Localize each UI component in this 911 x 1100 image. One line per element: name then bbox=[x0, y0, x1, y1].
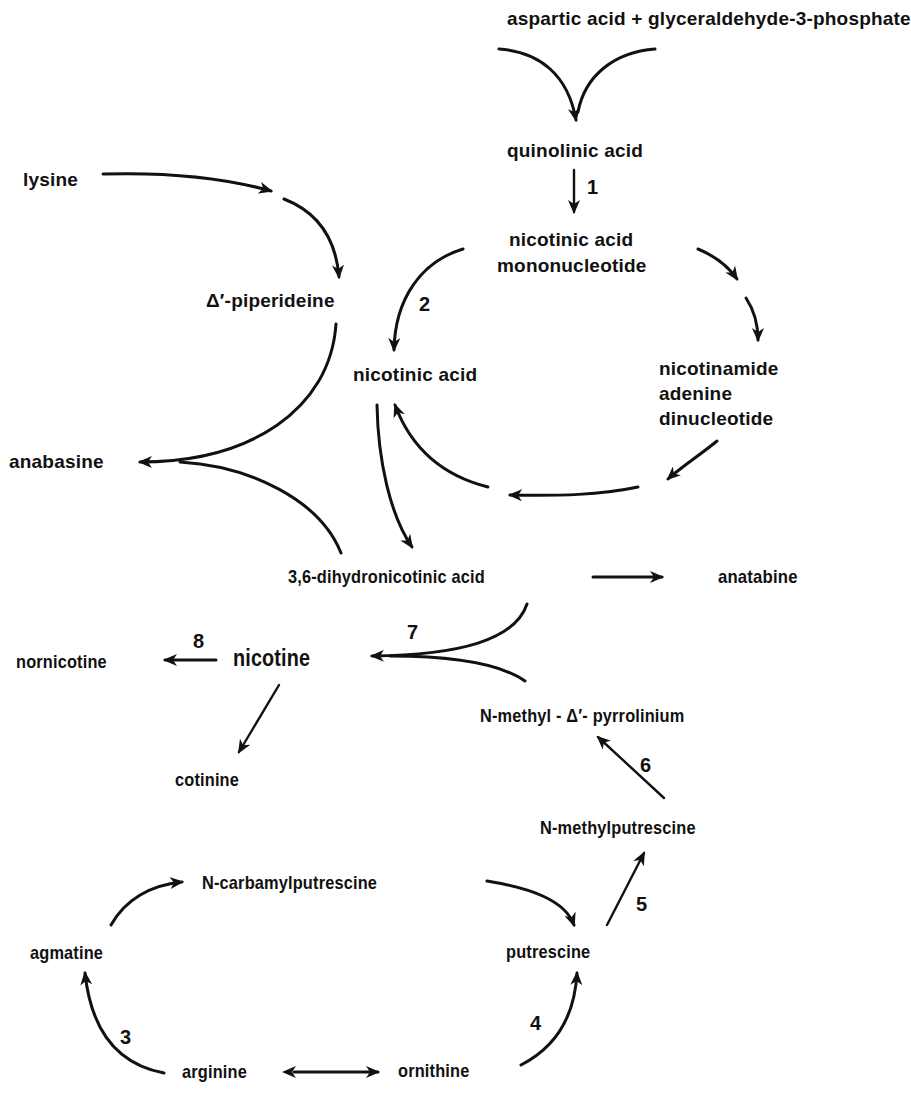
edge-g3p-to-quinolinic bbox=[578, 49, 655, 112]
node-nad-line2: adenine bbox=[659, 381, 732, 407]
edge-arginine-to-agmatine bbox=[85, 973, 164, 1073]
node-aspartic-acid-g3p: aspartic acid + glyceraldehyde-3-phospha… bbox=[507, 6, 911, 32]
edge-return-to-nicotinic-acid bbox=[395, 405, 488, 487]
node-nad-line1: nicotinamide bbox=[659, 356, 779, 382]
edge-dihydro-to-anabasine bbox=[180, 462, 341, 553]
edge-lysine-to-curve bbox=[103, 174, 271, 191]
step-label-3: 3 bbox=[120, 1026, 131, 1048]
edge-loop-return bbox=[510, 487, 638, 495]
node-namn-line2: mononucleotide bbox=[497, 253, 647, 279]
node-anatabine: anatabine bbox=[718, 564, 798, 590]
edge-asp-to-quinolinic bbox=[499, 49, 576, 120]
step-label-2: 2 bbox=[419, 293, 430, 315]
edge-carbamyl-to-putrescine bbox=[487, 881, 574, 925]
edge-namn-to-nad-a bbox=[698, 249, 737, 279]
step-label-7: 7 bbox=[407, 621, 418, 643]
edge-nad-to-loop bbox=[668, 441, 717, 479]
node-agmatine: agmatine bbox=[30, 940, 103, 966]
edge-agmatine-to-carbamyl bbox=[111, 882, 182, 925]
node-nicotine: nicotine bbox=[233, 645, 310, 671]
node-n-carbamylputrescine: N-carbamylputrescine bbox=[202, 870, 377, 896]
step-label-1: 1 bbox=[587, 176, 598, 198]
node-cotinine: cotinine bbox=[175, 767, 239, 793]
edge-curve-to-piperideine bbox=[284, 199, 339, 277]
node-anabasine: anabasine bbox=[9, 449, 104, 475]
node-nicotinic-acid: nicotinic acid bbox=[353, 362, 477, 388]
node-nornicotine: nornicotine bbox=[16, 649, 107, 675]
node-piperideine: Δ′-piperideine bbox=[206, 288, 335, 314]
step-label-5: 5 bbox=[636, 893, 647, 915]
node-arginine: arginine bbox=[182, 1059, 247, 1085]
step-label-4: 4 bbox=[530, 1012, 541, 1034]
node-quinolinic-acid: quinolinic acid bbox=[507, 138, 643, 164]
node-nad-line3: dinucleotide bbox=[659, 406, 773, 432]
node-lysine: lysine bbox=[23, 167, 78, 193]
edge-dihydro-to-nicotine bbox=[372, 604, 527, 656]
edge-piperideine-to-anabasine bbox=[140, 324, 336, 462]
node-dihydronicotinic-acid: 3,6-dihydronicotinic acid bbox=[288, 564, 485, 590]
step-label-6: 6 bbox=[640, 754, 651, 776]
edge-methylputrescine-to-pyrrolinium bbox=[598, 737, 664, 798]
node-n-methyl-pyrrolinium: N-methyl - Δ′- pyrrolinium bbox=[480, 703, 684, 729]
edge-pyrrolinium-to-nicotine bbox=[390, 656, 525, 681]
edge-nicotine-to-cotinine bbox=[239, 685, 279, 752]
node-putrescine: putrescine bbox=[506, 939, 590, 965]
node-n-methylputrescine: N-methylputrescine bbox=[540, 815, 696, 841]
node-namn-line1: nicotinic acid bbox=[509, 227, 633, 253]
node-ornithine: ornithine bbox=[398, 1058, 469, 1084]
step-label-8: 8 bbox=[193, 630, 204, 652]
edge-namn-to-nad-b bbox=[746, 298, 758, 340]
edge-nicotinic-to-dihydro bbox=[377, 405, 412, 547]
